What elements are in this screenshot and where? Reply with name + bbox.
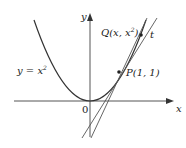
point-q (139, 33, 143, 37)
x-axis-arrow-icon (166, 98, 174, 104)
y-axis-label: y (80, 11, 87, 22)
origin-label: 0 (82, 104, 88, 115)
tangent-diagram: y x 0 y = x2 P(1, 1) Q(x, x2) t (0, 0, 186, 148)
point-p (117, 70, 121, 74)
curve-label: y = x2 (16, 64, 47, 76)
point-p-label: P(1, 1) (125, 67, 160, 78)
point-q-label: Q(x, x2) (101, 26, 139, 38)
tangent-label-t: t (150, 29, 155, 40)
y-axis-arrow-icon (87, 13, 93, 21)
x-axis-label: x (176, 103, 182, 114)
y-axis (87, 13, 93, 137)
